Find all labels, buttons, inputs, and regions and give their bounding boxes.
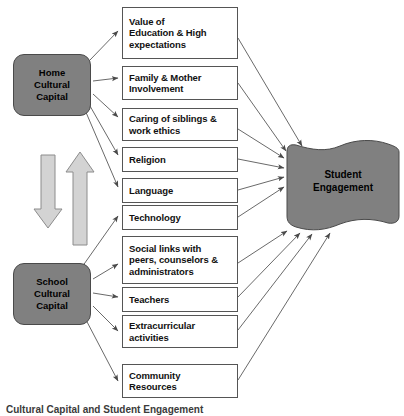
- extracurricular-activities-line-1: Extracurricular: [129, 320, 195, 332]
- node-home-cultural-capital[interactable]: Home Cultural Capital: [13, 54, 91, 116]
- figure-caption: Cultural Capital and Student Engagement: [6, 404, 398, 415]
- connector-home-to-caring-of-siblings: [93, 94, 118, 117]
- factor-label-religion: Religion: [129, 154, 166, 166]
- connector-school-to-teachers: [93, 293, 118, 297]
- family-mother-involvement-line-1: Family & Mother: [129, 72, 201, 84]
- factor-label-teachers: Teachers: [129, 294, 169, 306]
- factor-box-social-links[interactable]: Social links with peers, counselors & ad…: [122, 236, 238, 284]
- connector-community-resources-to-engagement: [238, 233, 330, 380]
- factor-box-language[interactable]: Language: [122, 178, 238, 203]
- factor-box-caring-of-siblings[interactable]: Caring of siblings & work ethics: [122, 108, 238, 141]
- value-of-education-line-3: expectations: [129, 39, 207, 51]
- community-resources-line-2: Resources: [129, 381, 180, 393]
- connector-home-to-value-of-education: [90, 31, 118, 60]
- factor-box-community-resources[interactable]: Community Resources: [122, 364, 238, 398]
- connector-technology-to-engagement: [238, 187, 284, 217]
- home-label-line-2: Cultural: [34, 79, 70, 91]
- student-engagement-line-2: Engagement: [296, 181, 390, 194]
- factor-label-technology: Technology: [129, 212, 181, 224]
- factor-label-community-resources: Community Resources: [129, 370, 180, 393]
- school-to-home-block-arrow: [66, 152, 94, 245]
- school-label-line-3: Capital: [34, 300, 70, 312]
- family-mother-involvement-line-2: Involvement: [129, 83, 201, 95]
- factor-label-value-of-education: Value of Education & High expectations: [129, 16, 207, 51]
- home-to-school-block-arrow: [34, 155, 62, 228]
- factor-label-caring-of-siblings: Caring of siblings & work ethics: [129, 113, 217, 136]
- school-label-line-1: School: [34, 276, 70, 288]
- connector-caring-of-siblings-to-engagement: [238, 129, 284, 158]
- home-label-line-1: Home: [34, 67, 70, 79]
- cultural-capital-diagram: Home Cultural Capital School Cultural Ca…: [0, 0, 404, 416]
- community-resources-line-1: Community: [129, 370, 180, 382]
- student-engagement-line-1: Student: [296, 168, 390, 181]
- connector-home-to-language: [85, 110, 118, 187]
- factor-box-technology[interactable]: Technology: [122, 205, 238, 230]
- factor-label-social-links: Social links with peers, counselors & ad…: [129, 243, 218, 278]
- social-links-line-1: Social links with: [129, 243, 218, 255]
- factor-box-extracurricular-activities[interactable]: Extracurricular activities: [122, 315, 238, 348]
- node-home-cultural-capital-label: Home Cultural Capital: [34, 67, 70, 103]
- node-school-cultural-capital-label: School Cultural Capital: [34, 276, 70, 312]
- caring-of-siblings-line-2: work ethics: [129, 125, 217, 137]
- connector-family-mother-involvement-to-engagement: [238, 83, 286, 151]
- factor-box-teachers[interactable]: Teachers: [122, 287, 238, 312]
- connector-home-to-family-mother-involvement: [93, 78, 118, 81]
- connector-value-of-education-to-engagement: [238, 38, 302, 146]
- connector-school-to-community-resources: [85, 318, 118, 381]
- node-student-engagement-label: Student Engagement: [296, 168, 390, 194]
- factor-box-religion[interactable]: Religion: [122, 147, 238, 172]
- factor-label-family-mother-involvement: Family & Mother Involvement: [129, 72, 201, 95]
- factor-box-family-mother-involvement[interactable]: Family & Mother Involvement: [122, 66, 238, 100]
- social-links-line-2: peers, counselors &: [129, 254, 218, 266]
- home-label-line-3: Capital: [34, 91, 70, 103]
- factor-label-extracurricular-activities: Extracurricular activities: [129, 320, 195, 343]
- extracurricular-activities-line-2: activities: [129, 332, 195, 344]
- value-of-education-line-1: Value of: [129, 16, 207, 28]
- connector-social-links-to-engagement: [238, 231, 287, 263]
- connector-religion-to-engagement: [238, 159, 284, 168]
- social-links-line-3: administrators: [129, 266, 218, 278]
- factor-label-language: Language: [129, 185, 173, 197]
- node-school-cultural-capital[interactable]: School Cultural Capital: [13, 263, 91, 325]
- value-of-education-line-2: Education & High: [129, 27, 207, 39]
- school-label-line-2: Cultural: [34, 288, 70, 300]
- connector-school-to-social-links: [93, 264, 118, 279]
- factor-box-value-of-education[interactable]: Value of Education & High expectations: [122, 7, 238, 59]
- connector-extracurricular-activities-to-engagement: [238, 234, 312, 330]
- connector-language-to-engagement: [238, 177, 284, 190]
- caring-of-siblings-line-1: Caring of siblings &: [129, 113, 217, 125]
- connector-school-to-extracurricular-activities: [93, 306, 118, 331]
